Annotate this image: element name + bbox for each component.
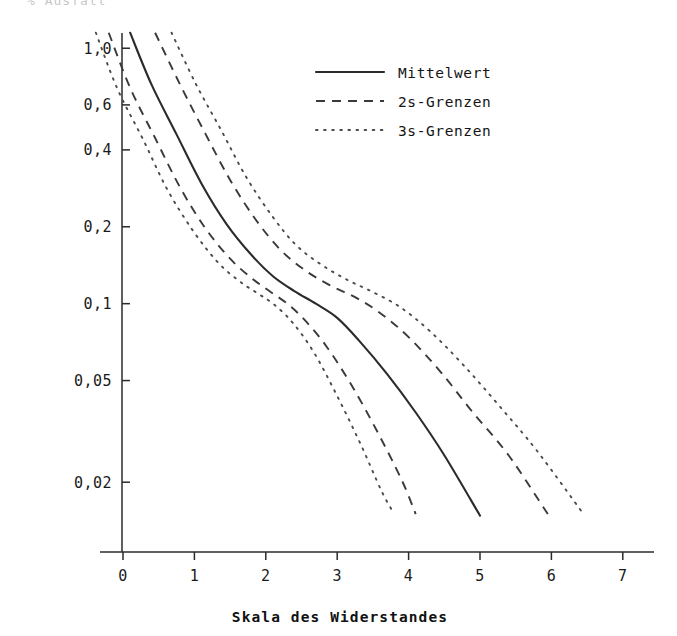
y-tick-label: 0,4 [83,141,112,159]
x-tick-group: 01234567 [118,552,627,585]
series-line [172,33,584,514]
x-tick-label: 1 [190,567,200,585]
x-axis-title: Skala des Widerstandes [232,609,448,625]
x-tick-label: 5 [475,567,485,585]
legend: Mittelwert2s-Grenzen3s-Grenzen [316,65,491,139]
y-tick-label: 1,0 [83,40,112,58]
y-tick-label: 0,02 [74,474,112,492]
legend-label: Mittelwert [398,65,491,81]
legend-label: 3s-Grenzen [398,123,491,139]
y-tick-label: 0,05 [74,372,112,390]
x-tick-label: 7 [618,567,628,585]
x-tick-label: 4 [404,567,414,585]
chart-canvas: 1,00,60,40,20,10,050,02 01234567 Mittelw… [0,0,677,636]
x-tick-label: 3 [332,567,342,585]
x-tick-label: 0 [118,567,128,585]
legend-label: 2s-Grenzen [398,94,491,110]
series-line [109,33,416,514]
y-tick-label: 0,1 [83,295,112,313]
x-tick-label: 6 [547,567,557,585]
axis-group [100,33,654,552]
data-curves-group [96,33,584,516]
x-tick-label: 2 [261,567,271,585]
y-tick-label: 0,6 [83,96,112,114]
y-tick-label: 0,2 [83,218,112,236]
chart-figure: 1,00,60,40,20,10,050,02 01234567 Mittelw… [0,0,677,636]
